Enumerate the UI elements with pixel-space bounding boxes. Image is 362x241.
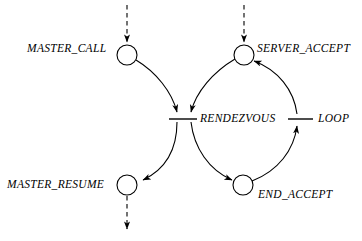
label-rendezvous: RENDEZVOUS xyxy=(200,113,276,125)
diagram-graphics xyxy=(0,0,362,241)
place-server-accept[interactable] xyxy=(234,45,254,65)
place-end-accept[interactable] xyxy=(233,175,253,195)
diagram-canvas: MASTER_CALL SERVER_ACCEPT RENDEZVOUS LOO… xyxy=(0,0,362,241)
edge-end-accept-to-loop xyxy=(252,126,297,181)
place-master-resume[interactable] xyxy=(117,175,137,195)
edge-rendezvous-to-master-resume xyxy=(143,122,177,180)
label-master-resume: MASTER_RESUME xyxy=(7,179,104,191)
edge-server-accept-to-rendezvous xyxy=(191,59,235,112)
label-loop: LOOP xyxy=(318,113,349,125)
edge-rendezvous-to-end-accept xyxy=(191,122,232,180)
place-master-call[interactable] xyxy=(117,45,137,65)
edge-loop-to-server-accept xyxy=(254,61,297,114)
edge-master-call-to-rendezvous xyxy=(136,60,177,112)
label-master-call: MASTER_CALL xyxy=(27,43,106,55)
label-server-accept: SERVER_ACCEPT xyxy=(257,43,350,55)
label-end-accept: END_ACCEPT xyxy=(258,189,333,201)
